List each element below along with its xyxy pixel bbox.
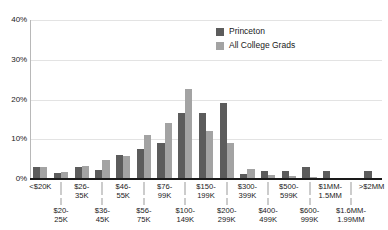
x-tick-label: $200-299K (217, 207, 236, 224)
x-axis-tick (185, 182, 186, 195)
bar (82, 166, 89, 180)
bar-group (341, 20, 362, 179)
y-tick-label: 20% (11, 96, 27, 104)
x-tick-label-line: 599K (279, 192, 298, 201)
x-axis-tick (350, 198, 351, 205)
y-tick-label: 30% (11, 56, 27, 64)
y-tick-label: 0% (16, 175, 27, 183)
x-axis-tick (226, 198, 227, 205)
bar-group (134, 20, 155, 179)
x-tick-label: $76-99K (157, 183, 172, 200)
x-tick-label-line: 999K (300, 216, 319, 225)
x-tick-label: >$2MM (359, 183, 385, 192)
x-tick-label-line: 149K (176, 216, 195, 225)
bar (185, 89, 192, 179)
y-axis: 0%10%20%30%40% (0, 0, 30, 230)
x-axis-labels: <$20K$20-25K$26-35K$36-45K$46-55K$56-75K… (30, 181, 382, 230)
legend-item: All College Grads (216, 40, 295, 51)
bar (144, 135, 151, 179)
bar (206, 131, 213, 179)
x-tick-label: $400-499K (258, 207, 277, 224)
x-tick-label-line: >$2MM (359, 183, 385, 192)
bar (137, 149, 144, 179)
x-axis-tick (143, 198, 144, 205)
x-axis-tick (309, 198, 310, 205)
x-tick-label-line: 199K (196, 192, 215, 201)
x-tick-label-line: 35K (74, 192, 89, 201)
income-distribution-bar-chart: 0%10%20%30%40% PrincetonAll College Grad… (0, 0, 388, 230)
bar-group (154, 20, 175, 179)
x-tick-label: $20-25K (53, 207, 68, 224)
bar (157, 143, 164, 179)
x-tick-label-line: <$20K (29, 183, 51, 192)
plot-area (30, 20, 382, 179)
x-tick-label-line: 25K (53, 216, 68, 225)
x-axis-tick (350, 182, 351, 195)
x-tick-label: $1MM-1.5MM (318, 183, 342, 200)
bar-group (92, 20, 113, 179)
x-axis-line (30, 178, 382, 180)
x-tick-label: $1.6MM-1.99MM (336, 207, 366, 224)
x-axis-tick (102, 198, 103, 205)
bar-group (320, 20, 341, 179)
legend-label: Princeton (229, 27, 265, 36)
x-tick-label-line: 299K (217, 216, 236, 225)
bar-group (361, 20, 382, 179)
x-axis-tick (309, 182, 310, 195)
bar-group (30, 20, 51, 179)
chart-legend: PrincetonAll College Grads (216, 26, 295, 51)
legend-label: All College Grads (229, 41, 295, 50)
x-tick-label: $100-149K (176, 207, 195, 224)
x-tick-label-line: 499K (258, 216, 277, 225)
x-tick-label: $500-599K (279, 183, 298, 200)
bar (199, 113, 206, 179)
x-axis-tick (268, 198, 269, 205)
x-tick-label: $46-55K (116, 183, 131, 200)
x-axis-tick (102, 182, 103, 195)
bar (116, 155, 123, 179)
x-tick-label-line: 75K (136, 216, 151, 225)
bar (102, 160, 109, 179)
legend-swatch-icon (216, 28, 224, 36)
bar (220, 103, 227, 179)
bar (227, 143, 234, 179)
x-tick-label: $56-75K (136, 207, 151, 224)
x-tick-label: $36-45K (95, 207, 110, 224)
bar-group (113, 20, 134, 179)
bar-group (71, 20, 92, 179)
x-axis-tick (61, 198, 62, 205)
x-axis-tick (268, 182, 269, 195)
legend-item: Princeton (216, 26, 295, 37)
bars-layer (30, 20, 382, 179)
legend-swatch-icon (216, 42, 224, 50)
x-tick-label: $300-399K (238, 183, 257, 200)
x-tick-label: $26-35K (74, 183, 89, 200)
x-tick-label: $150-199K (196, 183, 215, 200)
x-axis-tick (61, 182, 62, 195)
x-axis-tick (143, 182, 144, 195)
bar-group (299, 20, 320, 179)
x-tick-label-line: 1.5MM (318, 192, 342, 201)
y-tick-label: 10% (11, 135, 27, 143)
bar-group (175, 20, 196, 179)
bar (123, 156, 130, 179)
x-tick-label-line: 1.99MM (336, 216, 366, 225)
x-tick-label: $600-999K (300, 207, 319, 224)
bar-group (51, 20, 72, 179)
x-tick-label-line: 99K (157, 192, 172, 201)
bar (178, 113, 185, 179)
bar-group (196, 20, 217, 179)
x-axis-tick (226, 182, 227, 195)
y-tick-label: 40% (11, 16, 27, 24)
x-tick-label-line: 45K (95, 216, 110, 225)
x-axis-tick (185, 198, 186, 205)
x-tick-label-line: 55K (116, 192, 131, 201)
bar (165, 123, 172, 179)
x-tick-label: <$20K (29, 183, 51, 192)
x-tick-label-line: 399K (238, 192, 257, 201)
